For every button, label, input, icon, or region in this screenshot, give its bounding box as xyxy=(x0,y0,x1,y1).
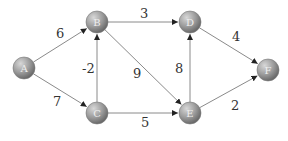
edges-layer xyxy=(33,22,257,113)
edge-weight-label: 7 xyxy=(53,94,61,109)
node-e: E xyxy=(179,102,201,124)
edge-weight-label: -2 xyxy=(82,61,95,76)
graph-diagram: 67-2395842 ABCDEF xyxy=(0,0,288,141)
node-c: C xyxy=(86,102,108,124)
node-b: B xyxy=(86,11,108,33)
node-label: C xyxy=(93,108,101,119)
edge-e-f xyxy=(200,76,258,108)
node-label: D xyxy=(186,17,194,28)
node-d: D xyxy=(179,11,201,33)
edge-weight-label: 9 xyxy=(133,66,141,81)
node-label: B xyxy=(93,17,100,28)
edge-weight-label: 6 xyxy=(56,26,64,41)
edge-weight-label: 8 xyxy=(175,61,183,76)
node-label: E xyxy=(186,108,193,119)
edge-d-f xyxy=(199,28,257,64)
edge-weight-label: 5 xyxy=(141,115,149,130)
edge-labels-layer: 67-2395842 xyxy=(53,6,240,130)
node-a: A xyxy=(13,57,35,79)
edge-b-e xyxy=(105,30,182,105)
edge-weight-label: 2 xyxy=(231,98,239,113)
node-f: F xyxy=(257,59,279,81)
edge-weight-label: 3 xyxy=(140,6,148,21)
node-label: A xyxy=(19,63,28,74)
node-label: F xyxy=(265,65,272,76)
edge-weight-label: 4 xyxy=(232,29,240,44)
